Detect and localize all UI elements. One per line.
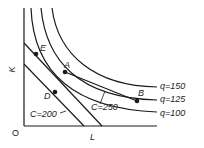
origin-label: O	[12, 129, 19, 138]
point-d-label: D	[44, 92, 51, 101]
c200-leader	[60, 111, 66, 113]
isoquant-q125-label: q=125	[160, 95, 185, 104]
isoquant-q100-label: q=100	[160, 109, 185, 118]
point-a-label: A	[64, 61, 70, 70]
isoquant-q150-label: q=150	[160, 82, 185, 91]
point-e-label: E	[40, 44, 46, 53]
isocost-c200-label: C=200	[30, 110, 57, 119]
k-axis-label: K	[8, 66, 17, 72]
point-d	[53, 90, 58, 95]
isocost-c250	[65, 72, 137, 101]
isoquant-q150	[52, 8, 157, 87]
point-b-label: B	[138, 89, 144, 98]
point-b	[135, 99, 140, 104]
production-diagram	[0, 0, 204, 148]
l-axis-label: L	[90, 133, 95, 142]
isocost-c250-label: C=250	[91, 103, 118, 112]
point-e	[34, 52, 39, 57]
point-a	[63, 70, 68, 75]
